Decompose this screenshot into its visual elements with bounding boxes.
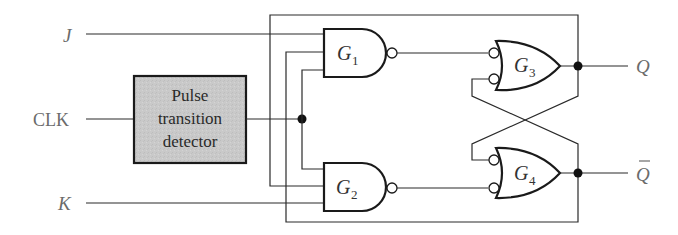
g2-label: G	[336, 176, 351, 198]
g1-subscript: 1	[352, 53, 359, 68]
k-input-label: K	[57, 193, 72, 214]
qbar-output-label: Q	[636, 164, 650, 185]
detector-label-line1: Pulse	[172, 86, 209, 105]
g2-subscript: 2	[351, 187, 358, 202]
j-input-label: J	[63, 25, 73, 46]
g3-label: G	[514, 54, 529, 76]
q-output-label: Q	[636, 56, 650, 77]
gate-g4-or: G 4	[489, 148, 560, 198]
q-junction-dot	[574, 62, 583, 71]
detector-label-line2: transition	[158, 109, 223, 128]
clk-input-label: CLK	[33, 110, 69, 130]
g4-label: G	[514, 162, 529, 184]
gate-g2-nand: G 2	[324, 163, 397, 211]
pulse-transition-detector: Pulse transition detector	[134, 76, 246, 163]
g4-subscript: 4	[529, 173, 536, 188]
gate-g3-or: G 3	[489, 41, 560, 90]
g1-label: G	[337, 42, 352, 64]
detector-label-line3: detector	[163, 132, 218, 151]
jk-flip-flop-diagram: J CLK K Pulse transition detector G 1 G …	[0, 0, 678, 235]
gate-g1-nand: G 1	[324, 29, 397, 77]
qbar-junction-dot	[574, 169, 583, 178]
g3-subscript: 3	[529, 65, 536, 80]
